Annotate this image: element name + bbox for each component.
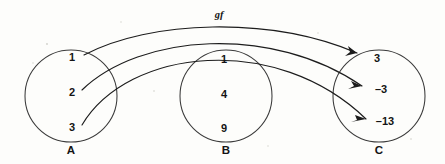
set-label-C: C (375, 144, 383, 156)
arrowhead-3-to-neg13 (351, 115, 366, 122)
function-composition-diagram: gf 1 2 3 1 4 9 3 –3 –13 A B C (0, 0, 445, 164)
element-A-3: 3 (69, 121, 75, 133)
set-label-A: A (67, 144, 75, 156)
set-C-elements: 3 –3 –13 (374, 52, 394, 127)
set-A-elements: 1 2 3 (69, 51, 75, 133)
set-labels-group: A B C (67, 144, 383, 156)
element-B-4: 4 (221, 88, 228, 100)
set-B-elements: 1 4 9 (221, 53, 228, 134)
element-C-3: 3 (374, 52, 380, 64)
composition-label: gf (214, 9, 225, 20)
element-C-neg3: –3 (375, 83, 387, 95)
mapping-arrows-group (82, 27, 366, 125)
set-label-B: B (222, 144, 230, 156)
arrowhead-1-to-3 (345, 46, 357, 56)
element-A-1: 1 (69, 51, 75, 63)
element-A-2: 2 (69, 86, 75, 98)
element-B-9: 9 (221, 122, 227, 134)
diagram-canvas: gf 1 2 3 1 4 9 3 –3 –13 A B C (0, 0, 445, 164)
element-C-neg13: –13 (376, 115, 394, 127)
element-B-1: 1 (221, 53, 227, 65)
